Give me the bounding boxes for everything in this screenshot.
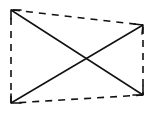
diagonal-bl-tr [11,25,143,103]
bottom-edge [13,95,143,103]
top-edge [13,10,143,25]
diagram-canvas [0,0,152,116]
quadrilateral-diagram [0,0,152,116]
